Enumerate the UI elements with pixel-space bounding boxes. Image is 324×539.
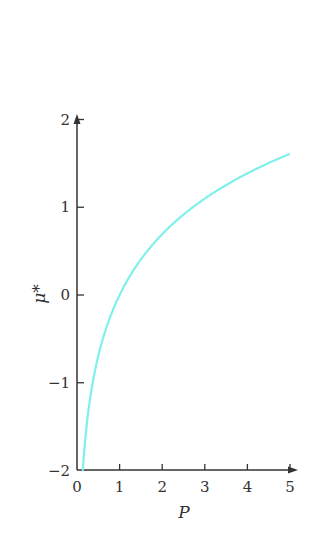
x-tick-label: 5 [285,478,295,496]
y-axis-label: μ* [29,284,49,304]
data-curve [83,154,290,471]
chart: 012345 −2−1012 P μ* [0,0,324,539]
x-tick-label: 3 [200,478,210,496]
y-tick-label: 1 [60,198,70,216]
y-tick-label: −2 [48,462,70,480]
y-tick-label: −1 [48,374,70,392]
y-tick-label: 0 [60,286,70,304]
x-tick-label: 1 [115,478,125,496]
y-tick-label: 2 [60,111,70,129]
x-tick-label: 0 [72,478,82,496]
x-ticks: 012345 [72,464,295,496]
x-tick-label: 2 [157,478,167,496]
y-ticks: −2−1012 [48,111,84,480]
x-tick-label: 4 [243,478,253,496]
x-axis-label: P [177,502,190,522]
axes [74,114,299,474]
